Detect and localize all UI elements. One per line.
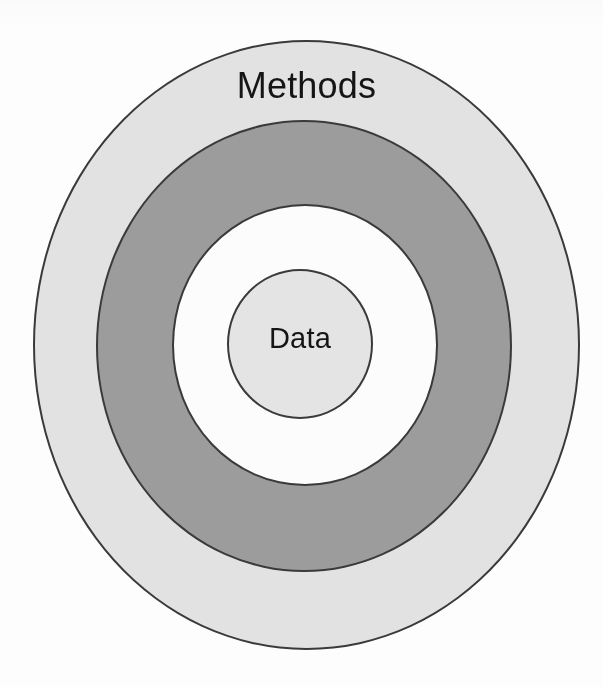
ring-data-label: Data	[229, 322, 371, 354]
ring-methods-label: Methods	[35, 66, 578, 106]
diagram-canvas: Methods Data	[0, 0, 603, 687]
ring-data[interactable]: Data	[227, 269, 373, 419]
